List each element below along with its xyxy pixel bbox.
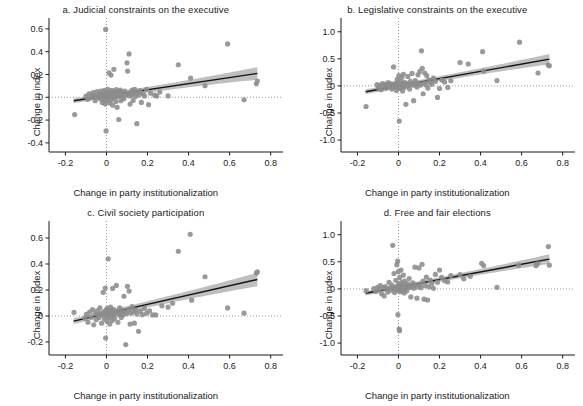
data-point [108,72,113,77]
data-point [396,328,401,333]
data-point [409,71,414,76]
data-point [153,312,158,317]
data-point [115,105,120,110]
x-tick-label: 0.8 [556,158,569,168]
x-tick-label: 0 [104,158,109,168]
data-point [202,274,207,279]
data-point [103,128,108,133]
data-point [85,320,90,325]
data-point [430,286,435,291]
data-point [418,48,423,53]
data-point [91,322,96,327]
data-point [434,95,439,100]
x-tick-label: -0.2 [349,361,365,371]
x-tick-label: 0.8 [556,361,569,371]
data-point [123,342,128,347]
data-point [189,298,194,303]
x-tick-label: 0.2 [433,158,446,168]
data-point [124,60,129,65]
y-tick-label: -1.0 [319,338,335,348]
y-tick-label: 0.5 [322,54,335,64]
y-tick-label: -0.2 [27,337,43,347]
data-point [106,256,111,261]
panel-b-plot: -1.0-0.500.51.0-0.200.20.40.60.8 [292,0,583,203]
x-tick-label: 0.8 [264,361,277,371]
data-point [241,97,246,102]
data-point [432,79,437,84]
x-tick-label: 0.2 [141,158,154,168]
data-point [146,102,151,107]
data-point [516,40,521,45]
data-point [494,78,499,83]
data-point [381,293,386,298]
data-point [363,104,368,109]
data-point [420,91,425,96]
data-point [445,279,450,284]
x-tick-label: 0 [395,158,400,168]
data-point [127,321,132,326]
x-tick-label: -0.2 [349,158,365,168]
data-point [176,62,181,67]
data-point [176,249,181,254]
data-point [363,288,368,293]
y-tick-label: -0.5 [319,311,335,321]
data-point [147,308,152,313]
data-point [425,297,430,302]
data-point [457,272,462,277]
data-point [480,49,485,54]
data-point [546,263,551,268]
data-point [436,267,441,272]
data-point [225,41,230,46]
data-point [125,68,130,73]
x-tick-label: 0.4 [182,158,195,168]
data-point [461,276,466,281]
x-tick-label: -0.2 [58,361,74,371]
data-point [535,261,540,266]
data-point [225,305,230,310]
y-tick-label: 1.0 [322,230,335,240]
x-tick-label: 0.6 [223,158,236,168]
data-point [97,305,102,310]
data-point [429,281,434,286]
data-point [113,99,118,104]
y-tick-label: 0.4 [30,259,43,269]
data-point [408,294,413,299]
data-point [142,93,147,98]
x-tick-label: 0.4 [182,361,195,371]
x-tick-label: 0.2 [141,361,154,371]
y-tick-label: 0 [329,81,334,91]
y-tick-label: 0.4 [30,47,43,57]
y-tick-label: 0.5 [322,257,335,267]
data-point [241,311,246,316]
data-point [414,296,419,301]
data-point [465,61,470,66]
data-point [157,89,162,94]
panel-a: a. Judicial constraints on the executive… [0,0,292,203]
data-point [103,27,108,32]
y-tick-label: -0.2 [27,115,43,125]
data-point [424,73,429,78]
panel-d: d. Free and fair elections Change in ind… [292,203,583,406]
data-point [398,267,403,272]
data-point [154,94,159,99]
data-point [448,78,453,83]
x-tick-label: 0 [104,361,109,371]
x-tick-label: -0.2 [58,158,74,168]
data-points [363,40,552,124]
data-point [103,285,108,290]
x-tick-label: 0.4 [474,158,487,168]
data-point [403,102,408,107]
data-point [72,112,77,117]
data-point [116,117,121,122]
data-point [457,60,462,65]
data-point [515,263,520,268]
data-point [165,305,170,310]
data-point [170,301,175,306]
data-point [111,67,116,72]
data-point [144,87,149,92]
data-point [125,284,130,289]
data-point [400,273,405,278]
data-point [103,336,108,341]
y-tick-label: 0 [38,92,43,102]
data-point [255,78,260,83]
